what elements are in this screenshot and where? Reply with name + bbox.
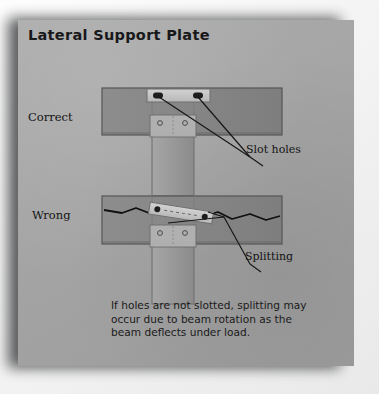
label-wrong: Wrong bbox=[32, 208, 71, 222]
label-correct: Correct bbox=[28, 110, 73, 124]
callout-splitting: Splitting bbox=[245, 250, 293, 263]
caption-line-1: If holes are not slotted, splitting may bbox=[111, 299, 323, 313]
figure-caption: If holes are not slotted, splitting may … bbox=[111, 299, 323, 340]
correct-column-bracket bbox=[150, 115, 196, 137]
caption-line-2: occur due to beam rotation as the bbox=[111, 313, 323, 327]
slot-hole bbox=[153, 93, 163, 99]
page-title: Lateral Support Plate bbox=[28, 27, 210, 43]
wrong-column-bracket bbox=[150, 225, 196, 247]
panel-correct bbox=[102, 88, 282, 196]
caption-line-3: beam deflects under load. bbox=[111, 326, 323, 340]
callout-slot-holes: Slot holes bbox=[246, 143, 301, 156]
